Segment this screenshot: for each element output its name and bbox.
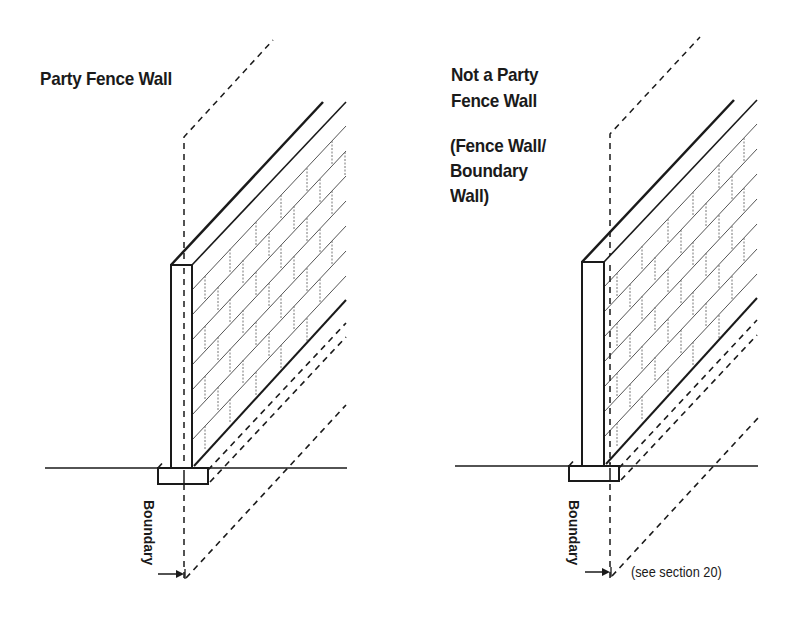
fence-wall-diagram <box>0 0 799 618</box>
right-boundary-label: Boundary <box>566 500 582 565</box>
right-subtitle-line1: (Fence Wall/ <box>450 133 546 158</box>
footing <box>158 468 208 484</box>
right-subtitle-line3: Wall) <box>450 183 489 208</box>
right-figure <box>455 37 758 578</box>
right-title-line1: Not a Party <box>451 62 538 87</box>
footing <box>569 466 619 481</box>
wall-end-face <box>171 265 192 468</box>
right-title-line2: Fence Wall <box>451 88 537 113</box>
right-subtitle-line2: Boundary <box>450 158 528 183</box>
section-reference-note: (see section 20) <box>631 563 722 580</box>
left-figure <box>45 40 347 579</box>
left-title: Party Fence Wall <box>40 66 172 91</box>
wall-end-face <box>582 262 604 466</box>
left-boundary-label: Boundary <box>141 500 157 565</box>
arrow-head-icon <box>602 568 610 576</box>
arrow-head-icon <box>176 570 184 578</box>
